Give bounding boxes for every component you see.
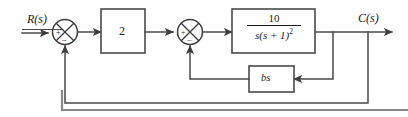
- rate-feedback-block-label: bs: [261, 73, 270, 84]
- block-diagram-svg: [0, 0, 408, 117]
- controlled-output-label: C(s): [358, 12, 379, 24]
- tf-denominator-exponent: 2: [289, 27, 293, 36]
- tf-denominator-base: s(s + 1): [255, 29, 289, 41]
- rate-feedback-block: [249, 66, 294, 92]
- summing-junction-outer-minus-sign: −: [62, 36, 67, 45]
- summing-junction-outer-plus-sign: +: [56, 29, 61, 37]
- summing-junction-inner-minus-sign: −: [187, 36, 192, 45]
- summing-junction-inner-plus-sign: +: [181, 29, 186, 37]
- gain-block-label: 2: [119, 25, 125, 37]
- reference-input-label: R(s): [27, 13, 47, 25]
- tf-numerator: 10: [245, 13, 303, 25]
- plant-transfer-function-label: 10 s(s + 1)2: [245, 13, 303, 41]
- page-frame: [62, 90, 408, 110]
- tf-denominator: s(s + 1)2: [245, 26, 303, 41]
- block-diagram-canvas: R(s) C(s) 2 10 s(s + 1)2 bs + − + −: [0, 0, 408, 117]
